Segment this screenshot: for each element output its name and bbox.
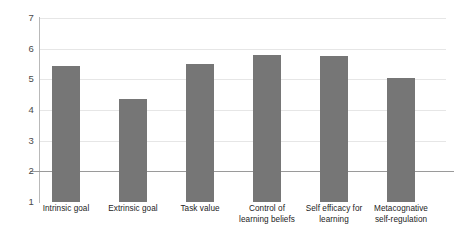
y-tick-label-3: 3 — [14, 136, 34, 146]
y-tick-label-4: 4 — [14, 105, 34, 115]
y-tick-label-7: 7 — [14, 13, 34, 23]
bar-metacognative-self-regulation — [387, 78, 415, 202]
x-label-control-of-learning-beliefs: Control of learning beliefs — [229, 204, 305, 225]
y-tick-label-2: 2 — [14, 167, 34, 177]
x-label-self-efficacy-for-learning: Self efficacy for learning — [296, 204, 372, 225]
bar-extrinsic-goal — [119, 99, 147, 202]
gridline-3 — [40, 141, 446, 142]
x-label-line1: Intrinsic goal — [43, 204, 90, 213]
plot-area — [40, 18, 446, 202]
gridline-4 — [40, 110, 446, 111]
x-label-intrinsic-goal: Intrinsic goal — [28, 204, 104, 215]
y-tick-label-5: 5 — [14, 75, 34, 85]
gridline-5 — [40, 79, 446, 80]
bar-intrinsic-goal — [52, 66, 80, 202]
x-label-line1: Self efficacy for — [306, 204, 363, 213]
bar-self-efficacy-for-learning — [320, 56, 348, 202]
x-label-line1: Extrinsic goal — [108, 204, 157, 213]
x-axis-category-labels: Intrinsic goal Extrinsic goal Task value… — [40, 204, 446, 238]
x-label-line2: self-regulation — [363, 215, 439, 226]
gridline-7 — [40, 18, 446, 19]
x-label-line1: Metacognative — [374, 204, 428, 213]
x-label-line1: Task value — [180, 204, 219, 213]
gridline-6 — [40, 49, 446, 50]
x-label-line2: learning beliefs — [229, 215, 305, 226]
y-tick-label-6: 6 — [14, 44, 34, 54]
x-label-extrinsic-goal: Extrinsic goal — [95, 204, 171, 215]
x-label-metacognative-self-regulation: Metacognative self-regulation — [363, 204, 439, 225]
bar-chart: 7 6 5 4 3 2 1 Intrinsic goal Extrinsic g… — [0, 0, 454, 240]
x-label-line1: Control of — [249, 204, 285, 213]
bar-control-of-learning-beliefs — [253, 55, 281, 202]
x-label-line2: learning — [296, 215, 372, 226]
x-label-task-value: Task value — [162, 204, 238, 215]
bar-task-value — [186, 64, 214, 202]
